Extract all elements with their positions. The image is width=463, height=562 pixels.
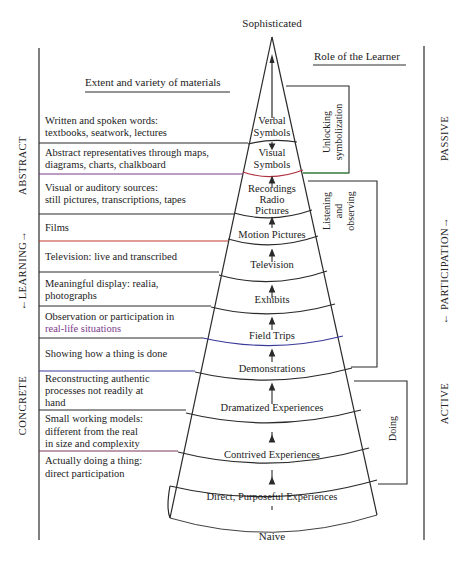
header-role-learner: Role of the Learner [314,50,400,62]
material-line: Reconstructing authentic [45,373,150,385]
cone-label-line: Verbal [242,115,302,127]
bracket-label-unlocking: Unlocking symbolization [321,87,345,177]
material-actually-doing: Actually doing a thing: direct participa… [45,455,142,480]
top-label-sophisticated: Sophisticated [230,17,314,29]
cone-label-line: Visual [242,147,302,159]
cone-left-edge [170,37,272,518]
left-label-concrete: CONCRETE [17,366,28,446]
cone-level-dramatized: Dramatized Experiences [197,402,347,413]
material-television: Television: live and transcribed [45,251,177,263]
material-showing: Showing how a thing is done [45,348,167,360]
material-line: still pictures, transcriptions, tapes [45,194,186,206]
material-line: textbooks, seatwork, lectures [45,127,167,139]
material-line: photographs [45,290,158,302]
bracket-label-line: and [333,171,345,251]
cone-label-line: Radio [237,194,307,205]
right-label-active: ACTIVE [439,364,450,444]
material-line: Actually doing a thing: [45,455,142,468]
right-label-participation: ← PARTICIPATION→ [439,211,450,331]
cone-label-line: Recordings [237,183,307,194]
material-small-models: Small working models: different from the… [45,413,143,451]
material-line: Films [45,222,69,234]
material-line: Written and spoken words: [45,115,167,127]
material-line: Showing how a thing is done [45,348,167,360]
bracket-label-doing: Doing [387,404,398,454]
bracket-label-line: Unlocking [321,87,333,177]
material-visual-auditory: Visual or auditory sources: still pictur… [45,182,186,206]
header-extent-materials: Extent and variety of materials [85,76,221,88]
left-label-learning: ←LEARNING→ [17,211,28,331]
cone-level-contrived: Contrived Experiences [197,449,347,460]
cone-label-line: Symbols [242,159,302,171]
cone-level-field-trips: Field Trips [222,330,322,341]
left-label-abstract: ABSTRACT [17,126,28,206]
bracket-label-line: symbolization [333,87,345,177]
cone-level-recordings: Recordings Radio Pictures [237,183,307,216]
arrow-head-icon [270,54,275,63]
bracket-doing [354,381,407,484]
material-meaningful-display: Meaningful display: realia, photographs [45,278,158,302]
material-line: real-life situations [45,323,174,335]
cone-level-visual-symbols: Visual Symbols [242,147,302,171]
material-line: processes not readily at [45,385,150,397]
cone-level-direct-purposeful: Direct, Purposeful Experiences [182,491,362,502]
cone-level-exhibits: Exhibits [222,294,322,305]
right-label-passive: PASSIVE [439,99,450,179]
material-line: diagrams, charts, chalkboard [45,159,209,171]
cone-level-television: Television [222,259,322,270]
cone-label-line: Symbols [242,127,302,139]
cone-level-motion-pictures: Motion Pictures [222,229,322,240]
material-films: Films [45,222,69,234]
material-abstract-representatives: Abstract representatives through maps, d… [45,147,209,171]
bracket-label-listening: Listening and observing [321,171,357,251]
material-reconstructing: Reconstructing authentic processes not r… [45,373,150,409]
cone-label-line: Pictures [237,205,307,216]
bracket-label-line: observing [345,171,357,251]
material-line: Abstract representatives through maps, [45,147,209,159]
bottom-label-naive: Naive [250,530,294,542]
bracket-label-line: Listening [321,171,333,251]
material-line: Observation or participation in [45,311,174,323]
cone-level-demonstrations: Demonstrations [207,363,337,374]
material-line: in size and complexity [45,438,143,451]
material-line: Meaningful display: realia, [45,278,158,290]
material-line: Small working models: [45,413,143,426]
material-line: direct participation [45,468,142,481]
material-line: hand [45,397,150,409]
material-line: Television: live and transcribed [45,251,177,263]
material-line: different from the real [45,426,143,439]
material-line: Visual or auditory sources: [45,182,186,194]
cone-level-verbal-symbols: Verbal Symbols [242,115,302,139]
material-observation: Observation or participation in real-lif… [45,311,174,335]
material-written-spoken: Written and spoken words: textbooks, sea… [45,115,167,139]
